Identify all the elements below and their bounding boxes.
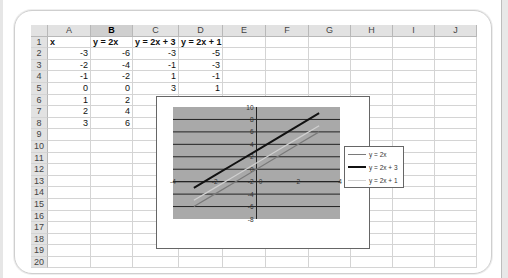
cell-j3[interactable] <box>435 60 477 72</box>
cell-a16[interactable] <box>48 211 91 223</box>
cell-j1[interactable] <box>435 37 477 49</box>
cell-b12[interactable] <box>91 164 133 176</box>
column-header-d[interactable]: D <box>179 25 223 37</box>
row-header[interactable]: 8 <box>31 118 48 130</box>
cell-i6[interactable] <box>393 95 435 107</box>
row-header[interactable]: 18 <box>31 234 48 246</box>
cell-a14[interactable] <box>48 187 91 199</box>
scrollbar-vertical[interactable] <box>501 0 508 278</box>
cell-j14[interactable] <box>435 187 477 199</box>
cell-b6[interactable]: 2 <box>91 95 133 107</box>
cell-i9[interactable] <box>393 129 435 141</box>
cell-j10[interactable] <box>435 141 477 153</box>
cell-a19[interactable] <box>48 245 91 257</box>
cell-j5[interactable] <box>435 83 477 95</box>
cell-b4[interactable]: -2 <box>91 71 133 83</box>
cell-d3[interactable]: -3 <box>179 60 223 72</box>
cell-d20[interactable] <box>179 257 223 269</box>
cell-a7[interactable]: 2 <box>48 106 91 118</box>
row-header[interactable]: 17 <box>31 222 48 234</box>
cell-a13[interactable] <box>48 176 91 188</box>
cell-e4[interactable] <box>223 71 266 83</box>
cell-b2[interactable]: -6 <box>91 48 133 60</box>
cell-d5[interactable]: 1 <box>179 83 223 95</box>
cell-e5[interactable] <box>223 83 266 95</box>
row-header[interactable]: 15 <box>31 199 48 211</box>
cell-h3[interactable] <box>351 60 393 72</box>
cell-j15[interactable] <box>435 199 477 211</box>
cell-i18[interactable] <box>393 234 435 246</box>
cell-g20[interactable] <box>309 257 351 269</box>
cell-i7[interactable] <box>393 106 435 118</box>
cell-b14[interactable] <box>91 187 133 199</box>
row-header[interactable]: 3 <box>31 60 48 72</box>
cell-b8[interactable]: 6 <box>91 118 133 130</box>
row-header[interactable]: 20 <box>31 257 48 269</box>
cell-a11[interactable] <box>48 153 91 165</box>
select-all-corner[interactable] <box>31 25 48 37</box>
column-header-f[interactable]: F <box>266 25 309 37</box>
column-header-i[interactable]: I <box>393 25 435 37</box>
cell-a10[interactable] <box>48 141 91 153</box>
cell-i19[interactable] <box>393 245 435 257</box>
cell-j13[interactable] <box>435 176 477 188</box>
cell-e2[interactable] <box>223 48 266 60</box>
cell-b18[interactable] <box>91 234 133 246</box>
cell-i8[interactable] <box>393 118 435 130</box>
cell-j12[interactable] <box>435 164 477 176</box>
column-header-b[interactable]: B <box>91 25 133 37</box>
column-header-g[interactable]: G <box>309 25 351 37</box>
cell-h4[interactable] <box>351 71 393 83</box>
cell-a20[interactable] <box>48 257 91 269</box>
cell-j20[interactable] <box>435 257 477 269</box>
chart-legend[interactable]: y = 2x y = 2x + 3 y = 2x + 1 <box>344 146 404 188</box>
row-header[interactable]: 7 <box>31 106 48 118</box>
cell-j16[interactable] <box>435 211 477 223</box>
cell-j11[interactable] <box>435 153 477 165</box>
cell-i4[interactable] <box>393 71 435 83</box>
cell-h2[interactable] <box>351 48 393 60</box>
cell-f4[interactable] <box>266 71 309 83</box>
cell-b7[interactable]: 4 <box>91 106 133 118</box>
cell-a17[interactable] <box>48 222 91 234</box>
cell-g4[interactable] <box>309 71 351 83</box>
cell-a2[interactable]: -3 <box>48 48 91 60</box>
cell-a6[interactable]: 1 <box>48 95 91 107</box>
column-header-h[interactable]: H <box>351 25 393 37</box>
cell-a15[interactable] <box>48 199 91 211</box>
row-header[interactable]: 19 <box>31 245 48 257</box>
cell-a8[interactable]: 3 <box>48 118 91 130</box>
column-header-c[interactable]: C <box>133 25 179 37</box>
cell-b15[interactable] <box>91 199 133 211</box>
row-header[interactable]: 16 <box>31 211 48 223</box>
cell-j8[interactable] <box>435 118 477 130</box>
cell-b17[interactable] <box>91 222 133 234</box>
cell-j17[interactable] <box>435 222 477 234</box>
cell-e20[interactable] <box>223 257 266 269</box>
cell-i2[interactable] <box>393 48 435 60</box>
cell-g5[interactable] <box>309 83 351 95</box>
cell-a4[interactable]: -1 <box>48 71 91 83</box>
cell-d4[interactable]: -1 <box>179 71 223 83</box>
cell-b1[interactable]: y = 2x <box>91 37 133 49</box>
cell-c2[interactable]: -3 <box>133 48 179 60</box>
cell-j2[interactable] <box>435 48 477 60</box>
cell-i16[interactable] <box>393 211 435 223</box>
cell-h5[interactable] <box>351 83 393 95</box>
cell-j9[interactable] <box>435 129 477 141</box>
column-header-e[interactable]: E <box>223 25 266 37</box>
cell-a18[interactable] <box>48 234 91 246</box>
cell-b3[interactable]: -4 <box>91 60 133 72</box>
cell-j6[interactable] <box>435 95 477 107</box>
cell-e3[interactable] <box>223 60 266 72</box>
cell-f2[interactable] <box>266 48 309 60</box>
cell-b11[interactable] <box>91 153 133 165</box>
column-header-a[interactable]: A <box>48 25 91 37</box>
cell-f5[interactable] <box>266 83 309 95</box>
cell-g3[interactable] <box>309 60 351 72</box>
row-header[interactable]: 6 <box>31 95 48 107</box>
cell-j4[interactable] <box>435 71 477 83</box>
cell-i17[interactable] <box>393 222 435 234</box>
cell-a3[interactable]: -2 <box>48 60 91 72</box>
row-header[interactable]: 14 <box>31 187 48 199</box>
